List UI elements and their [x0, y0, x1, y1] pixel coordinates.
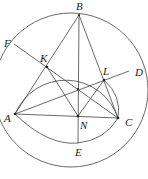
label-D: D	[134, 66, 143, 78]
inner-circle-right	[104, 80, 119, 118]
segment-KN	[47, 67, 78, 116]
label-N: N	[79, 119, 88, 131]
point-K	[46, 66, 49, 69]
segment-BC	[79, 15, 118, 118]
geometry-diagram: B F K L D A N C E	[0, 0, 148, 179]
label-A: A	[3, 112, 11, 124]
segment-BE	[78, 15, 79, 143]
label-C: C	[125, 116, 133, 128]
circumcircle	[0, 13, 148, 167]
point-A	[14, 113, 17, 116]
point-L	[103, 79, 106, 82]
segment-AD	[15, 71, 129, 114]
point-B	[78, 14, 80, 16]
lower-arc-aec	[15, 114, 118, 143]
label-F: F	[3, 37, 11, 49]
point-N	[77, 115, 80, 118]
point-intersection	[77, 88, 79, 90]
segment-AB	[15, 15, 79, 114]
label-L: L	[102, 65, 109, 77]
segment-AC	[15, 114, 118, 118]
label-K: K	[39, 52, 48, 64]
point-C	[117, 117, 120, 120]
inner-circle-arc	[15, 80, 118, 118]
label-B: B	[76, 0, 83, 12]
label-E: E	[74, 146, 82, 158]
